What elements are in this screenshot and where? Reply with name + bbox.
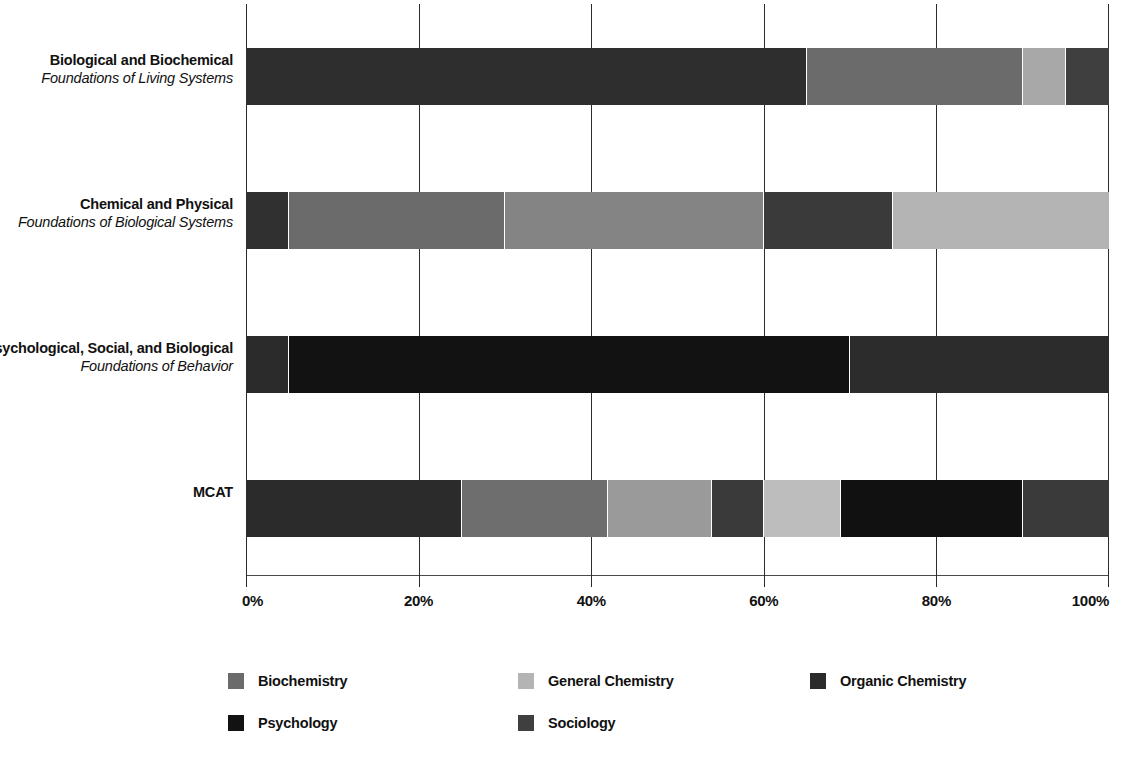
- tick-label-40: 40%: [577, 592, 606, 609]
- legend-swatch-icon: [810, 673, 826, 689]
- bar-0: [246, 48, 1109, 105]
- bar-3-segment-6: [1023, 480, 1109, 537]
- bar-2-segment-2: [850, 336, 1109, 393]
- category-label-2-line2: Foundations of Behavior: [0, 358, 233, 376]
- tick-mark-60: [764, 575, 765, 587]
- category-label-1: Chemical and Physical Foundations of Bio…: [0, 196, 233, 231]
- legend-swatch-icon: [228, 715, 244, 731]
- legend-item-psychology[interactable]: Psychology: [228, 715, 337, 731]
- tick-mark-40: [591, 575, 592, 587]
- category-label-0-line2: Foundations of Living Systems: [0, 70, 233, 88]
- bar-3: [246, 480, 1109, 537]
- legend-item-sociology[interactable]: Sociology: [518, 715, 616, 731]
- category-label-1-line2: Foundations of Biological Systems: [0, 214, 233, 232]
- legend-item-organic-chemistry[interactable]: Organic Chemistry: [810, 673, 966, 689]
- legend-label: Biochemistry: [258, 673, 347, 689]
- bar-0-segment-2: [1023, 48, 1066, 105]
- legend-item-general-chemistry[interactable]: General Chemistry: [518, 673, 674, 689]
- category-label-2-line1: Psychological, Social, and Biological: [0, 340, 233, 358]
- legend-label: Organic Chemistry: [840, 673, 966, 689]
- tick-label-0: 0%: [242, 592, 263, 609]
- bar-0-segment-1: [807, 48, 1023, 105]
- legend-swatch-icon: [518, 673, 534, 689]
- legend-item-biochemistry[interactable]: Biochemistry: [228, 673, 347, 689]
- category-label-0: Biological and Biochemical Foundations o…: [0, 52, 233, 87]
- x-axis-line: [246, 575, 1109, 576]
- category-label-3-line1: MCAT: [0, 484, 233, 502]
- legend-label: Psychology: [258, 715, 337, 731]
- category-label-2: Psychological, Social, and Biological Fo…: [0, 340, 233, 375]
- chart-legend: BiochemistryGeneral ChemistryOrganic Che…: [0, 665, 1129, 765]
- bar-1-segment-0: [246, 192, 289, 249]
- bar-3-segment-3: [712, 480, 764, 537]
- legend-label: Sociology: [548, 715, 616, 731]
- bar-3-segment-5: [841, 480, 1022, 537]
- bar-1-segment-3: [764, 192, 893, 249]
- bar-3-segment-1: [462, 480, 609, 537]
- bar-3-segment-4: [764, 480, 842, 537]
- legend-swatch-icon: [518, 715, 534, 731]
- tick-label-60: 60%: [749, 592, 778, 609]
- category-label-1-line1: Chemical and Physical: [0, 196, 233, 214]
- legend-label: General Chemistry: [548, 673, 674, 689]
- tick-label-100: 100%: [1072, 592, 1109, 609]
- bar-0-segment-3: [1066, 48, 1109, 105]
- bar-2: [246, 336, 1109, 393]
- bar-1: [246, 192, 1109, 249]
- legend-swatch-icon: [228, 673, 244, 689]
- bar-1-segment-1: [289, 192, 505, 249]
- bar-2-segment-0: [246, 336, 289, 393]
- tick-mark-20: [419, 575, 420, 587]
- category-label-3: MCAT: [0, 484, 233, 502]
- tick-mark-100: [1108, 575, 1109, 587]
- tick-label-80: 80%: [922, 592, 951, 609]
- stacked-bar-chart: Biological and Biochemical Foundations o…: [0, 0, 1129, 770]
- tick-mark-0: [246, 575, 247, 587]
- bar-1-segment-2: [505, 192, 764, 249]
- bar-3-segment-0: [246, 480, 462, 537]
- plot-area: [246, 4, 1109, 575]
- bar-3-segment-2: [608, 480, 712, 537]
- tick-mark-80: [936, 575, 937, 587]
- tick-label-20: 20%: [404, 592, 433, 609]
- category-label-0-line1: Biological and Biochemical: [0, 52, 233, 70]
- bar-2-segment-1: [289, 336, 850, 393]
- bar-1-segment-4: [893, 192, 1109, 249]
- bar-0-segment-0: [246, 48, 807, 105]
